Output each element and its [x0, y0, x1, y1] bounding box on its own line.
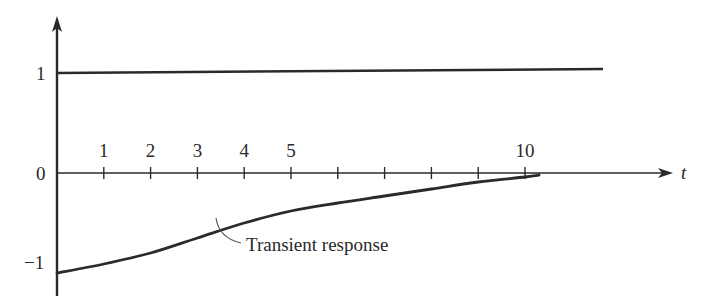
x-tick-label: 1	[99, 140, 109, 161]
y-tick-label-1: 1	[36, 63, 46, 84]
transient-response-curve	[57, 175, 539, 273]
y-axis	[52, 16, 62, 296]
x-axis: t	[57, 162, 687, 183]
x-tick-label: 2	[146, 140, 156, 161]
x-tick-label: 3	[193, 140, 203, 161]
x-tick-label: 5	[286, 140, 296, 161]
x-tick-label: 4	[239, 140, 249, 161]
x-axis-label: t	[681, 162, 687, 183]
x-tick-label: 10	[516, 140, 535, 161]
steady-state-line	[57, 69, 603, 73]
transient-response-chart: t 1234510 1 0 −1 Transient response	[0, 0, 715, 305]
y-tick-label-neg1: −1	[24, 252, 44, 273]
y-tick-label-0: 0	[36, 163, 46, 184]
x-tick-labels: 1234510	[99, 140, 534, 161]
annotation-transient-response: Transient response	[246, 234, 388, 255]
